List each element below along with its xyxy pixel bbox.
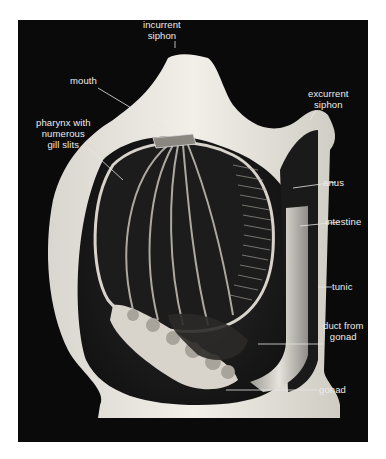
label-mouth: mouth [70,75,97,86]
label-text: duct from [323,320,364,331]
label-incurrent-siphon: incurrent siphon [143,20,181,41]
specimen-photo: incurrent siphon mouth excurrent siphon … [18,20,368,442]
label-text: excurrent [308,88,349,99]
label-intestine: intestine [325,216,361,227]
label-text: tunic [332,281,353,292]
label-text: gill slits [36,139,91,150]
label-duct-from-gonad: duct from gonad [323,320,364,342]
label-text: gonad [323,331,364,342]
label-text: mouth [70,75,97,86]
label-text: pharynx with [36,117,91,128]
label-text: siphon [143,30,181,41]
label-anus: anus [323,177,344,188]
label-excurrent-siphon: excurrent siphon [308,88,349,110]
label-tunic: tunic [332,281,353,292]
label-text: numerous [36,128,91,139]
pharynx-shape [95,143,273,332]
label-text: gonad [319,384,346,395]
label-text: intestine [325,216,361,227]
label-text: incurrent [143,20,181,30]
label-text: anus [323,177,344,188]
label-text: siphon [308,99,349,110]
label-gonad: gonad [319,384,346,395]
label-pharynx: pharynx with numerous gill slits [36,117,91,150]
